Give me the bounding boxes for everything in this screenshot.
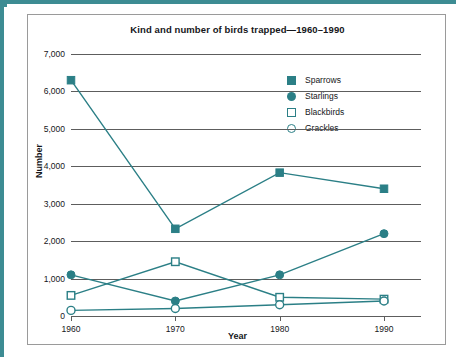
data-point-marker [172,258,180,266]
data-point-marker [67,76,75,84]
y-tick-label: 3,000 [44,199,65,209]
series-grackles [67,297,388,314]
data-point-marker [67,292,75,300]
x-tick-label: 1970 [166,324,185,334]
x-tick-mark [175,316,176,321]
y-tick-label: 5,000 [44,124,65,134]
data-point-marker [380,230,388,238]
x-tick-label: 1980 [270,324,289,334]
x-tick-mark [71,316,72,321]
series-line [71,234,384,301]
data-point-marker [380,185,388,193]
series-line [71,262,384,299]
series-line [71,301,384,310]
data-point-marker [171,305,179,313]
x-tick-label: 1990 [375,324,394,334]
data-point-marker [276,294,284,302]
series-starlings [67,230,388,305]
plot-area: 01,0002,0003,0004,0005,0006,0007,000 196… [71,54,421,316]
y-tick-label: 7,000 [44,49,65,59]
data-point-marker [276,301,284,309]
y-tick-label: 0 [60,311,65,321]
x-tick-mark [280,316,281,321]
chart-title: Kind and number of birds trapped—1960–19… [28,24,447,35]
outer-frame: Kind and number of birds trapped—1960–19… [0,0,456,357]
y-tick-label: 4,000 [44,161,65,171]
data-point-marker [172,225,180,233]
data-point-marker [276,169,284,177]
data-point-marker [67,306,75,314]
data-point-marker [276,271,284,279]
y-tick-label: 1,000 [44,274,65,284]
series-blackbirds [67,258,388,303]
y-axis-title: Number [34,144,44,178]
series-layer [71,54,421,316]
x-tick-mark [384,316,385,321]
x-tick-label: 1960 [62,324,81,334]
frame-top-inner-line [7,4,456,7]
data-point-marker [380,297,388,305]
data-point-marker [67,271,75,279]
frame-left-inner-line [4,7,7,357]
y-tick-label: 2,000 [44,236,65,246]
chart-card: Kind and number of birds trapped—1960–19… [27,14,446,345]
series-line [71,80,384,229]
gridline [71,316,421,317]
series-sparrows [67,76,388,232]
y-tick-label: 6,000 [44,86,65,96]
